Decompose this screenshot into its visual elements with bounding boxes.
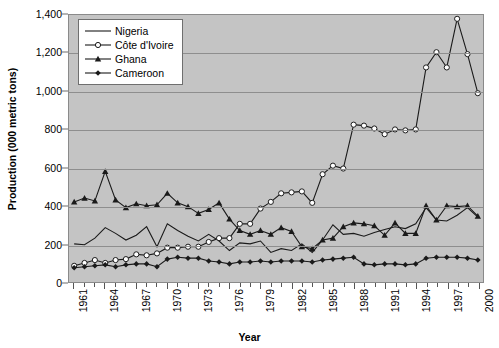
x-axis-tick-label: 1970 xyxy=(171,289,183,312)
y-axis-tick-mark xyxy=(62,52,68,53)
legend-label: Cameroon xyxy=(113,67,164,79)
series-line xyxy=(74,171,478,248)
x-axis-tick-mark xyxy=(396,283,397,287)
data-point xyxy=(454,254,460,260)
x-axis-tick-mark xyxy=(177,283,178,287)
data-point xyxy=(392,261,398,267)
y-axis-tick-mark xyxy=(62,244,68,245)
x-axis-tick-mark xyxy=(156,283,157,287)
data-point xyxy=(216,236,221,241)
x-axis-tick-label: 1979 xyxy=(264,289,276,312)
data-point xyxy=(175,254,181,260)
data-point xyxy=(372,262,378,268)
data-point xyxy=(444,65,449,70)
y-axis-tick-label: 1,000 xyxy=(22,85,62,97)
data-point xyxy=(455,16,460,21)
x-axis-tick-mark xyxy=(219,283,220,287)
data-point xyxy=(351,122,356,127)
y-axis-tick-mark xyxy=(62,167,68,168)
data-point xyxy=(309,259,315,265)
x-axis-tick-label: 1964 xyxy=(108,289,120,312)
data-point xyxy=(216,200,222,206)
x-axis-tick-mark xyxy=(468,283,469,287)
data-point xyxy=(403,262,409,268)
legend-symbol-line-filled-diamond xyxy=(83,66,113,80)
data-point xyxy=(310,200,315,205)
chart-figure: Production (000 metric tons) 02004006008… xyxy=(0,0,499,348)
data-point xyxy=(113,264,119,270)
data-point xyxy=(144,261,150,267)
data-point xyxy=(382,132,387,137)
data-point xyxy=(444,254,450,260)
x-axis-tick-label: 1976 xyxy=(233,289,245,312)
data-point xyxy=(164,190,170,196)
x-axis-tick-mark xyxy=(427,283,428,287)
data-point xyxy=(226,216,232,222)
series-cameroon xyxy=(71,254,480,270)
data-point xyxy=(113,257,118,262)
data-point xyxy=(258,258,264,264)
data-point xyxy=(133,261,139,267)
y-axis-tick-mark xyxy=(62,129,68,130)
y-axis-title: Production (000 metric tons) xyxy=(2,14,22,264)
series-line xyxy=(74,257,478,267)
data-point xyxy=(123,262,129,268)
x-axis-tick-mark xyxy=(333,283,334,287)
data-point xyxy=(257,227,263,233)
y-axis-tick-mark xyxy=(62,283,68,284)
x-axis-tick-mark xyxy=(375,283,376,287)
x-axis-tick-mark xyxy=(146,283,147,287)
x-axis-tick-label: 1961 xyxy=(77,289,89,312)
x-axis-tick-mark xyxy=(437,283,438,287)
legend-symbol-line-filled-triangle xyxy=(83,52,113,66)
x-axis-tick-mark xyxy=(94,283,95,287)
gridline xyxy=(69,169,483,170)
x-axis-tick-mark xyxy=(458,283,459,287)
data-point xyxy=(92,263,98,269)
y-axis-tick-label: 400 xyxy=(22,200,62,212)
legend-symbol-line xyxy=(83,24,113,38)
x-axis-tick-mark xyxy=(271,283,272,287)
data-point xyxy=(351,254,357,260)
data-point xyxy=(268,259,274,265)
data-point xyxy=(227,236,232,241)
data-point xyxy=(299,258,305,264)
data-point xyxy=(299,189,304,194)
data-point xyxy=(206,258,212,264)
data-point xyxy=(465,255,471,261)
series-ghana xyxy=(71,168,481,251)
data-point xyxy=(123,257,128,262)
data-point xyxy=(196,255,202,261)
data-point xyxy=(278,258,284,264)
x-axis-tick-mark xyxy=(208,283,209,287)
data-point xyxy=(361,261,367,267)
data-point xyxy=(247,259,253,265)
x-axis-tick-mark xyxy=(240,283,241,287)
data-point xyxy=(413,261,419,267)
gridline xyxy=(69,246,483,247)
x-axis-tick-label: 1994 xyxy=(420,289,432,312)
data-point xyxy=(423,255,429,261)
x-axis-tick-label: 1982 xyxy=(296,289,308,312)
data-point xyxy=(216,259,222,265)
x-axis-tick-label: 1973 xyxy=(202,289,214,312)
x-axis-tick-label: 1991 xyxy=(389,289,401,312)
data-point xyxy=(144,253,149,258)
x-axis-tick-mark xyxy=(364,283,365,287)
data-point xyxy=(289,258,295,264)
data-point xyxy=(227,261,233,267)
x-axis-tick-mark xyxy=(312,283,313,287)
data-point xyxy=(330,256,336,262)
data-point xyxy=(320,257,326,263)
x-axis-tick-labels: 1961196419671970197319761979198219851988… xyxy=(0,289,499,329)
data-point xyxy=(382,261,388,267)
data-point xyxy=(154,251,159,256)
legend-item: Nigeria xyxy=(83,24,174,38)
y-axis-tick-label: 1,400 xyxy=(22,8,62,20)
data-point xyxy=(392,220,398,226)
y-axis-tick-mark xyxy=(62,14,68,15)
y-axis-tick-mark xyxy=(62,206,68,207)
data-point xyxy=(475,257,481,263)
legend-item: Cameroon xyxy=(83,66,174,80)
data-point xyxy=(279,191,284,196)
